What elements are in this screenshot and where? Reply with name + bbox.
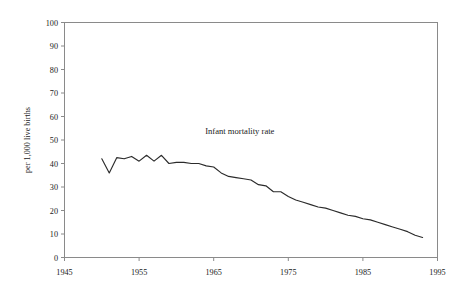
y-axis-title: per 1,000 live births [23, 107, 32, 173]
series-annotation-label: Infant mortality rate [205, 126, 274, 136]
y-tick-label: 60 [50, 113, 58, 122]
x-tick-label: 1955 [131, 268, 147, 277]
y-tick-label: 50 [50, 136, 58, 145]
x-tick-label: 1945 [56, 268, 72, 277]
x-axis-ticks: 194519551965197519851995 [56, 258, 445, 277]
y-tick-label: 80 [50, 66, 58, 75]
y-axis-ticks: 0102030405060708090100 [46, 19, 65, 263]
y-tick-label: 20 [50, 207, 58, 216]
y-tick-label: 30 [50, 183, 58, 192]
x-tick-label: 1965 [206, 268, 222, 277]
plot-border [65, 23, 438, 258]
chart-container: 0102030405060708090100 19451955196519751… [0, 0, 466, 295]
y-tick-label: 10 [50, 230, 58, 239]
y-tick-label: 90 [50, 42, 58, 51]
y-tick-label: 0 [54, 254, 58, 263]
x-tick-label: 1995 [429, 268, 445, 277]
y-tick-label: 70 [50, 89, 58, 98]
y-tick-label: 100 [46, 19, 58, 28]
x-tick-label: 1985 [355, 268, 371, 277]
y-tick-label: 40 [50, 160, 58, 169]
x-tick-label: 1975 [280, 268, 296, 277]
infant-mortality-line-chart: 0102030405060708090100 19451955196519751… [0, 0, 466, 295]
infant-mortality-series-line [102, 155, 423, 237]
plot-frame [65, 23, 438, 258]
